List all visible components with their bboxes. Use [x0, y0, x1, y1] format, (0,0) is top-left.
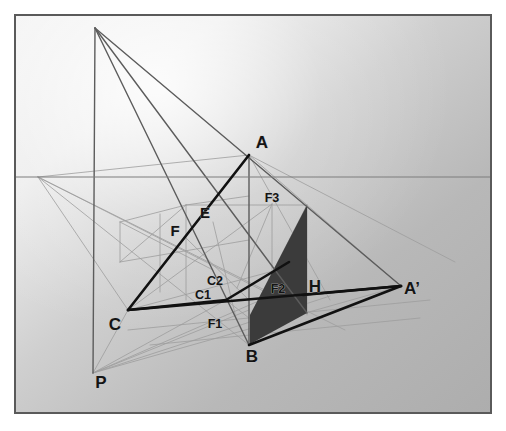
- point-label-P: P: [95, 373, 106, 392]
- point-label-A: A: [256, 133, 268, 152]
- point-label-F2: F2: [271, 282, 286, 296]
- point-label-E: E: [200, 204, 210, 221]
- point-label-C: C: [109, 315, 121, 334]
- perspective-diagram: ABCA’HPEFC1C2F1F2F3: [0, 0, 506, 431]
- point-label-C2: C2: [207, 274, 223, 288]
- diagram-canvas: ABCA’HPEFC1C2F1F2F3: [0, 0, 506, 431]
- point-label-H: H: [309, 277, 321, 296]
- point-label-F1: F1: [208, 317, 223, 331]
- point-label-C1: C1: [195, 288, 211, 302]
- point-label-B: B: [246, 347, 258, 366]
- point-label-Ap: A’: [404, 279, 420, 298]
- point-label-F: F: [170, 222, 179, 239]
- point-label-F3: F3: [265, 191, 280, 205]
